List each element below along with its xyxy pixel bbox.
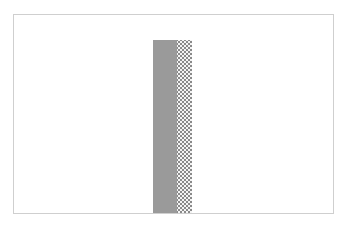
bar [153,40,192,213]
bar-solid-segment [153,40,177,213]
plot-area [13,14,334,214]
chart-canvas [0,0,348,228]
bar-dotted-segment [177,40,192,213]
